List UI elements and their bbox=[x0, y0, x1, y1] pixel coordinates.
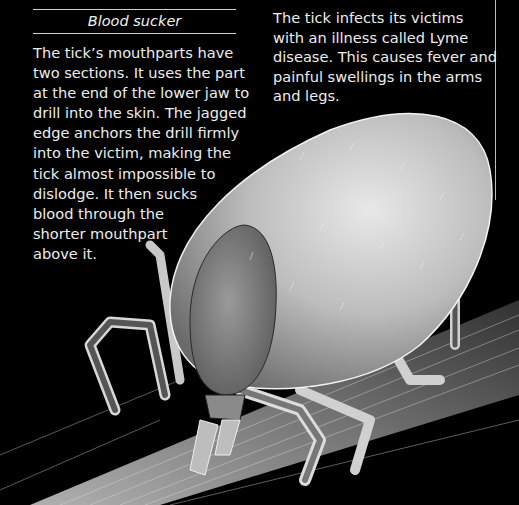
text-line: disease. This causes fever and bbox=[273, 47, 503, 67]
text-line: two sections. It uses the part bbox=[33, 63, 263, 83]
text-line: painful swellings in the arms bbox=[273, 67, 503, 87]
text-line: with an illness called Lyme bbox=[273, 28, 503, 48]
text-line: The tick’s mouthparts have bbox=[33, 43, 263, 63]
text-line: and legs. bbox=[273, 86, 503, 106]
text-line: The tick infects its victims bbox=[273, 8, 503, 28]
text-line: drill into the skin. The jagged bbox=[33, 103, 263, 123]
text-line: tick almost impossible to bbox=[33, 164, 263, 184]
sidebar-body-text: The tick’s mouthparts have two sections.… bbox=[33, 43, 263, 264]
heading-rule-bottom bbox=[33, 33, 236, 34]
text-line: edge anchors the drill firmly bbox=[33, 123, 263, 143]
text-line: dislodge. It then sucks bbox=[33, 184, 263, 204]
text-line: shorter mouthpart bbox=[33, 224, 263, 244]
text-line: above it. bbox=[33, 244, 263, 264]
caption-text: The tick infects its victims with an ill… bbox=[273, 8, 503, 106]
text-line: into the victim, making the bbox=[33, 143, 263, 163]
text-line: blood through the bbox=[33, 204, 263, 224]
sidebar-heading: Blood sucker bbox=[33, 10, 236, 32]
text-line: at the end of the lower jaw to bbox=[33, 83, 263, 103]
